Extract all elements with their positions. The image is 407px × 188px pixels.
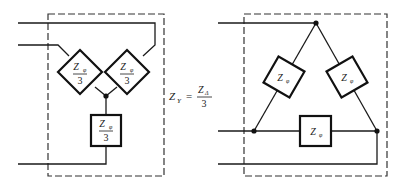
- svg-text:Z: Z: [198, 84, 204, 95]
- delta-impedance-bottom: Z φ: [300, 116, 331, 146]
- svg-text:Δ: Δ: [204, 90, 209, 96]
- delta-left-node: [251, 128, 256, 133]
- wye-line-a: [18, 23, 155, 56]
- delta-impedance-right: [327, 57, 368, 98]
- svg-text:Z: Z: [99, 118, 105, 129]
- svg-text:3: 3: [104, 132, 109, 143]
- equivalence-formula: Z Y = Z Δ 3: [169, 84, 212, 109]
- svg-text:3: 3: [202, 98, 207, 109]
- wye-neutral-node: [103, 93, 108, 98]
- wye-network: Z φ 3 Z φ 3 Z φ 3: [18, 14, 164, 176]
- delta-network: Z φ Z φ Z φ: [218, 14, 387, 176]
- delta-top-node: [313, 20, 318, 25]
- svg-text:Y: Y: [177, 97, 182, 105]
- svg-text:3: 3: [125, 75, 130, 86]
- svg-text:Z: Z: [73, 61, 79, 72]
- svg-text:Z: Z: [169, 90, 176, 102]
- delta-enclosure-frame: [244, 14, 387, 176]
- wye-line-c: [18, 146, 106, 164]
- wye-impedance-right: Z φ 3: [105, 50, 149, 94]
- delta-impedance-left: [264, 57, 305, 98]
- svg-text:3: 3: [78, 75, 83, 86]
- wye-delta-diagram: Z φ 3 Z φ 3 Z φ 3 Z Y = Z Δ 3: [0, 0, 407, 188]
- svg-text:=: =: [186, 90, 192, 102]
- svg-text:Z: Z: [120, 61, 126, 72]
- svg-text:Z: Z: [277, 72, 283, 83]
- wye-line-b: [18, 45, 69, 56]
- delta-line-c: [218, 131, 377, 164]
- wye-impedance-bottom: Z φ 3: [91, 115, 121, 146]
- svg-text:Z: Z: [310, 126, 316, 137]
- svg-text:Z: Z: [341, 72, 347, 83]
- delta-right-node: [374, 128, 379, 133]
